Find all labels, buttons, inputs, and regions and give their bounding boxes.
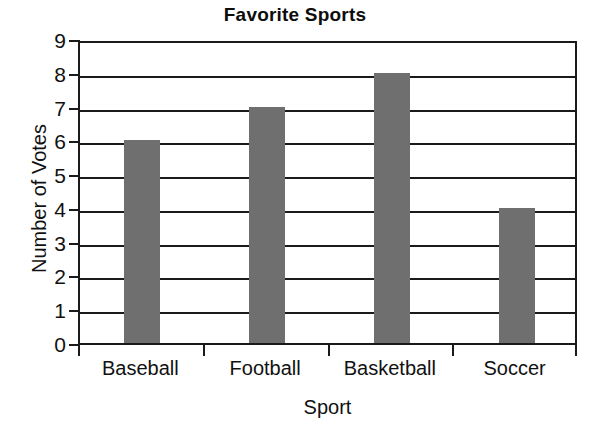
bar-chart-figure: Favorite Sports Number of Votes 98765432… [0, 0, 590, 428]
y-tick-mark [69, 141, 80, 143]
x-tick-label: Football [203, 357, 328, 380]
y-tick-label: 0 [26, 334, 66, 355]
y-tick-label: 2 [26, 266, 66, 287]
x-tick-label: Baseball [78, 357, 203, 380]
x-tick-mark [575, 345, 577, 356]
y-tick-label: 1 [26, 300, 66, 321]
y-tick-mark [69, 276, 80, 278]
y-tick-label: 8 [26, 64, 66, 85]
y-tick-mark [69, 243, 80, 245]
y-tick-label: 7 [26, 98, 66, 119]
x-tick-label: Soccer [452, 357, 577, 380]
y-tick-mark [69, 108, 80, 110]
y-tick-mark [69, 175, 80, 177]
y-tick-mark [69, 310, 80, 312]
x-tick-mark [203, 345, 205, 356]
x-tick-mark [452, 345, 454, 356]
y-tick-mark [69, 40, 80, 42]
y-tick-label: 6 [26, 131, 66, 152]
y-tick-label: 9 [26, 30, 66, 51]
y-tick-mark [69, 209, 80, 211]
x-axis-title: Sport [78, 396, 577, 419]
y-tick-label: 3 [26, 233, 66, 254]
y-tick-mark [69, 74, 80, 76]
y-tick-label: 5 [26, 165, 66, 186]
x-tick-mark [328, 345, 330, 356]
x-tick-label: Basketball [328, 357, 453, 380]
y-tick-label: 4 [26, 199, 66, 220]
x-tick-mark [78, 345, 80, 356]
